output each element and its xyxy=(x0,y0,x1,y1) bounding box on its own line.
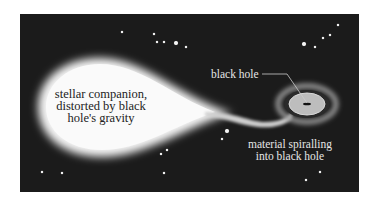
star-icon xyxy=(165,148,168,151)
star-icon xyxy=(220,137,223,140)
companion-label-line-3: hole's gravity xyxy=(46,112,156,124)
star-icon xyxy=(162,40,165,43)
star-icon xyxy=(155,40,158,43)
black-hole-label: black hole xyxy=(211,68,259,80)
star-icon xyxy=(336,23,339,26)
star-icon xyxy=(301,41,306,46)
material-label-line-2: into black hole xyxy=(235,150,345,162)
star-icon xyxy=(120,30,123,33)
star-icon xyxy=(159,152,162,155)
star-icon xyxy=(40,170,43,173)
star-icon xyxy=(321,36,324,39)
black-hole-core xyxy=(303,103,311,106)
companion-label: stellar companion, distorted by black ho… xyxy=(46,88,156,124)
material-label-line-1: material spiralling xyxy=(235,138,345,150)
star-icon xyxy=(304,178,307,181)
star-icon xyxy=(313,45,316,48)
star-icon xyxy=(224,128,229,133)
star-icon xyxy=(184,45,187,48)
star-icon xyxy=(162,171,165,174)
material-label: material spiralling into black hole xyxy=(235,138,345,162)
star-icon xyxy=(318,170,321,173)
star-icon xyxy=(173,40,178,45)
gas-stream xyxy=(205,112,292,127)
star-icon xyxy=(328,33,331,36)
star-icon xyxy=(60,171,63,174)
star-icon xyxy=(152,32,155,35)
